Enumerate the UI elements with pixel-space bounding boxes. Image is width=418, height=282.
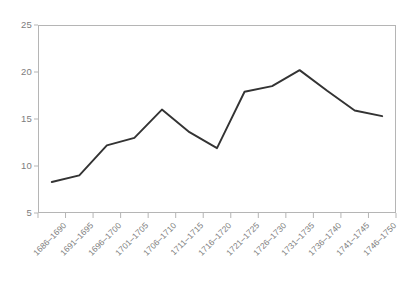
line-chart: 510152025 1686–16901691–16951696–1700170… (0, 0, 418, 282)
x-axis-labels: 1686–16901691–16951696–17001701–17051706… (0, 0, 418, 282)
